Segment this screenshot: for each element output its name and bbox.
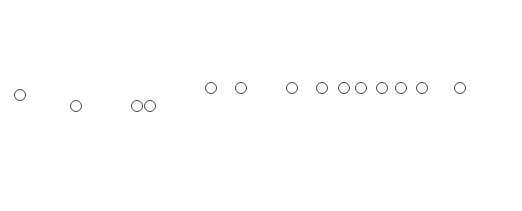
label-right-11 xyxy=(416,82,428,94)
label-right-7 xyxy=(316,82,328,94)
label-left-3 xyxy=(131,100,143,112)
label-left-1 xyxy=(14,89,26,101)
label-right-10 xyxy=(395,82,407,94)
label-right-8 xyxy=(355,82,367,94)
label-right-1 xyxy=(205,82,217,94)
label-left-2 xyxy=(70,100,82,112)
label-right-5 xyxy=(235,82,247,94)
label-right-4 xyxy=(338,82,350,94)
earthworm-diagram xyxy=(0,0,522,211)
label-right-6 xyxy=(286,82,298,94)
label-left-4 xyxy=(144,100,156,112)
label-right-9 xyxy=(376,82,388,94)
label-right-12 xyxy=(454,82,466,94)
